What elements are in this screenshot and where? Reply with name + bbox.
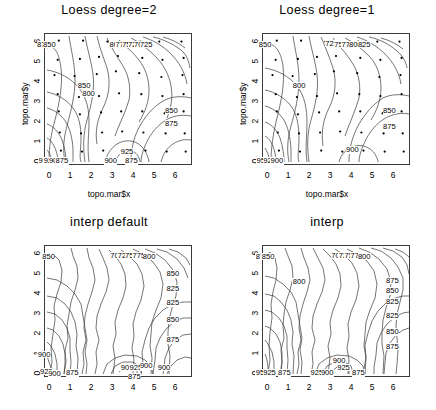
data-point bbox=[141, 110, 143, 112]
y-axis-label: topo.mar$y bbox=[238, 82, 248, 125]
data-point bbox=[403, 151, 405, 153]
panel-title: Loess degree=1 bbox=[218, 3, 436, 17]
data-point bbox=[379, 95, 381, 97]
data-point bbox=[180, 41, 182, 43]
x-tick: 0 bbox=[262, 382, 272, 392]
data-point bbox=[359, 57, 361, 59]
plot-area bbox=[44, 245, 192, 377]
x-axis-label: topo.mar$x bbox=[218, 189, 436, 199]
data-point bbox=[181, 74, 183, 76]
contour-label: 925 bbox=[337, 364, 350, 372]
contour-label: 850 bbox=[166, 270, 179, 278]
data-point bbox=[383, 132, 385, 134]
y-tick: 5 bbox=[250, 268, 260, 278]
data-point bbox=[319, 131, 321, 133]
data-point bbox=[297, 58, 299, 60]
y-tick: 6 bbox=[32, 248, 42, 258]
panel-loess-degree-2: Loess degree=2 topo.mar$y topo.mar$x 0 1… bbox=[0, 0, 218, 205]
y-tick: 3 bbox=[250, 308, 260, 318]
contour-label: 875 bbox=[125, 157, 138, 165]
data-point bbox=[101, 131, 103, 133]
contour-label: 900 bbox=[48, 370, 61, 378]
data-point bbox=[316, 56, 318, 58]
data-point bbox=[96, 73, 98, 75]
contour-label: 850 bbox=[386, 328, 399, 336]
data-point bbox=[166, 151, 168, 153]
data-point bbox=[401, 93, 403, 95]
y-tick: 2 bbox=[32, 116, 42, 126]
contour-label: 900 bbox=[157, 364, 170, 372]
data-point bbox=[298, 132, 300, 134]
data-point bbox=[53, 74, 55, 76]
data-points bbox=[271, 40, 404, 153]
data-point bbox=[297, 113, 299, 115]
data-point bbox=[141, 57, 143, 59]
data-point bbox=[57, 59, 59, 61]
data-point bbox=[82, 40, 84, 42]
x-tick: 3 bbox=[107, 382, 117, 392]
contour-label: 875 bbox=[165, 120, 178, 128]
y-tick: 3 bbox=[32, 96, 42, 106]
x-tick: 3 bbox=[107, 170, 117, 180]
data-point bbox=[336, 92, 338, 94]
data-point bbox=[80, 132, 82, 134]
contour-label: 875 bbox=[386, 343, 399, 351]
data-point bbox=[59, 131, 61, 133]
data-point bbox=[160, 76, 162, 78]
contour-label: 850 bbox=[383, 107, 396, 115]
y-tick: 4 bbox=[32, 76, 42, 86]
data-point bbox=[183, 110, 185, 112]
contour-label: 800 bbox=[143, 253, 156, 261]
contour-label: 850 bbox=[166, 316, 179, 324]
x-tick: 5 bbox=[149, 382, 159, 392]
data-point bbox=[60, 150, 62, 152]
contour-label: 875 bbox=[166, 336, 179, 344]
data-point bbox=[358, 93, 360, 95]
data-point bbox=[275, 93, 277, 95]
contour-label: 875 bbox=[383, 123, 396, 131]
data-point bbox=[100, 111, 102, 113]
plot-area bbox=[44, 33, 192, 165]
data-point bbox=[384, 151, 386, 153]
contour-label: 725 bbox=[140, 41, 153, 49]
x-tick: 5 bbox=[367, 170, 377, 180]
data-point bbox=[276, 110, 278, 112]
figure-grid: Loess degree=2 topo.mar$y topo.mar$x 0 1… bbox=[0, 0, 436, 410]
x-tick: 1 bbox=[65, 170, 75, 180]
y-tick: 5 bbox=[32, 268, 42, 278]
data-point bbox=[359, 110, 361, 112]
contour-label: 850 bbox=[42, 253, 55, 261]
data-point bbox=[318, 111, 320, 113]
contour-svg bbox=[45, 246, 191, 376]
x-tick: 0 bbox=[44, 382, 54, 392]
data-point bbox=[121, 130, 123, 132]
data-point bbox=[161, 59, 163, 61]
data-point bbox=[185, 151, 187, 153]
x-tick: 4 bbox=[128, 170, 138, 180]
data-point bbox=[140, 93, 142, 95]
data-point bbox=[58, 40, 60, 42]
x-tick: 3 bbox=[325, 382, 335, 392]
x-tick: 6 bbox=[388, 170, 398, 180]
x-tick: 6 bbox=[170, 170, 180, 180]
panel-title: interp bbox=[218, 215, 436, 229]
data-point bbox=[117, 55, 119, 57]
panel-interp-default: interp default 0 1 2 3 4 5 6 0 1 2 3 4 5… bbox=[0, 205, 218, 410]
x-tick: 0 bbox=[44, 170, 54, 180]
data-point bbox=[158, 41, 160, 43]
contour-label: 800 bbox=[358, 253, 371, 261]
contour-label: 825 bbox=[166, 285, 179, 293]
contour-label: 900 bbox=[270, 157, 283, 165]
y-tick: 4 bbox=[250, 288, 260, 298]
contour-label: 900 bbox=[37, 351, 50, 359]
y-axis-label: topo.mar$y bbox=[20, 82, 30, 125]
data-point bbox=[320, 150, 322, 152]
contour-svg bbox=[45, 34, 191, 164]
contour-label: 850 bbox=[258, 41, 271, 49]
x-tick: 0 bbox=[262, 170, 272, 180]
y-tick: 3 bbox=[250, 96, 260, 106]
data-point bbox=[142, 131, 144, 133]
contour-label: 850 bbox=[165, 107, 178, 115]
data-point bbox=[362, 150, 364, 152]
data-point bbox=[138, 72, 140, 74]
